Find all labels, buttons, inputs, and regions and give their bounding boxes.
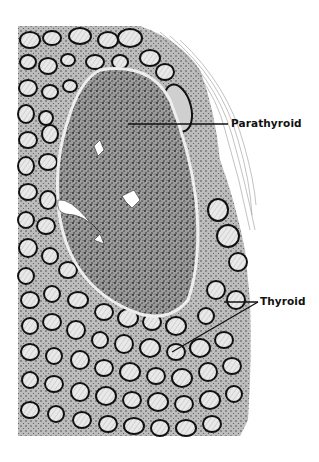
parathyroid-label: Parathyroid — [231, 117, 302, 129]
thyroid-label: Thyroid — [260, 295, 306, 307]
histology-illustration — [0, 0, 319, 462]
